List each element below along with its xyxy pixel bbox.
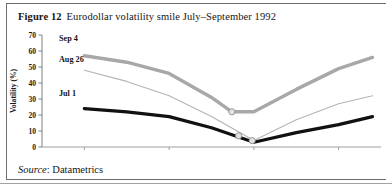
figure-title: Eurodollar volatility smile July–Septemb… xyxy=(62,11,276,22)
series-label-group: Sep 4Aug 26Jul 1 xyxy=(59,34,84,97)
y-tick-label: 70 xyxy=(28,31,36,40)
series-label-aug-26: Aug 26 xyxy=(59,55,84,64)
series-line-sep-4 xyxy=(84,56,372,112)
x-tick-group: 4.755.255.756.25 xyxy=(77,147,345,154)
series-label-jul-1: Jul 1 xyxy=(59,89,76,98)
page-bottom-rule xyxy=(0,183,392,184)
chart-plot-area: 010203040506070 4.755.255.756.25 Volatil… xyxy=(7,26,387,154)
x-tick-label: 6.25 xyxy=(332,153,346,155)
series-line-jul-1 xyxy=(84,109,372,143)
y-tick-label: 10 xyxy=(28,127,36,136)
y-tick-label: 20 xyxy=(28,111,36,120)
x-tick-label: 5.75 xyxy=(247,153,261,155)
x-tick-label: 5.25 xyxy=(162,153,176,155)
series-line-aug-26 xyxy=(84,70,372,140)
data-point-marker xyxy=(229,109,235,115)
series-group xyxy=(84,56,372,142)
y-tick-label: 0 xyxy=(32,143,36,152)
figure-number: Figure 12 xyxy=(18,11,62,22)
data-point-marker xyxy=(236,133,242,139)
series-label-sep-4: Sep 4 xyxy=(59,34,78,43)
y-axis-title: Volatility (%) xyxy=(9,68,18,113)
y-tick-group: 010203040506070 xyxy=(28,31,42,152)
y-tick-label: 50 xyxy=(28,63,36,72)
source-line: Source: Datametrics xyxy=(18,164,103,175)
figure-card: Figure 12Eurodollar volatility smile Jul… xyxy=(6,3,386,180)
data-point-marker xyxy=(249,138,255,144)
y-tick-label: 60 xyxy=(28,47,36,56)
source-word: Source xyxy=(18,164,47,175)
x-tick-label: 4.75 xyxy=(77,153,91,155)
source-value: : Datametrics xyxy=(47,164,103,175)
y-tick-label: 40 xyxy=(28,79,36,88)
y-tick-label: 30 xyxy=(28,95,36,104)
volatility-smile-chart: 010203040506070 4.755.255.756.25 Volatil… xyxy=(7,26,387,154)
figure-caption: Figure 12Eurodollar volatility smile Jul… xyxy=(18,11,276,22)
